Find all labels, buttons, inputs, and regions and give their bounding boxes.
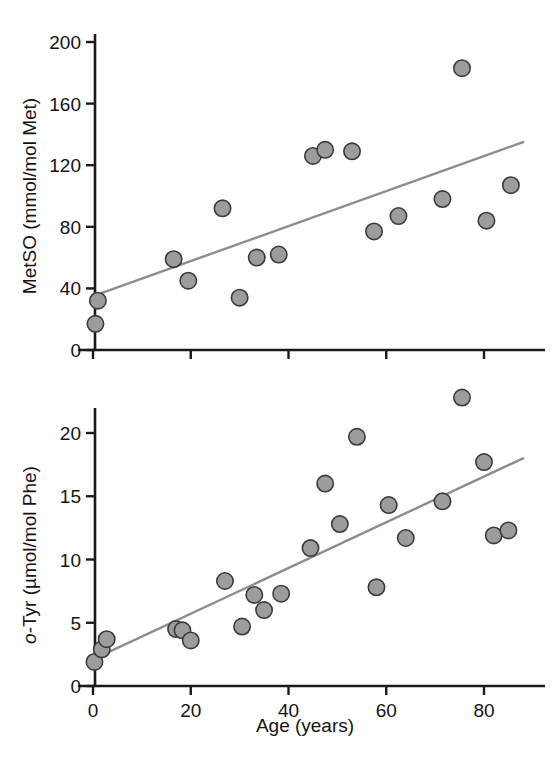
figure-container: 04080120160200 MetSO (mmol/mol Met) 0510… <box>0 0 557 765</box>
data-point <box>476 454 492 470</box>
data-point <box>271 246 287 262</box>
data-point <box>366 223 382 239</box>
y-tick-label: 5 <box>70 613 81 634</box>
data-point <box>183 632 199 648</box>
metso-y-axis-title: MetSO (mmol/mol Met) <box>19 98 40 294</box>
data-point <box>317 475 333 491</box>
data-point <box>454 389 470 405</box>
metso-axes <box>78 34 545 359</box>
data-point <box>249 249 265 265</box>
data-point <box>503 177 519 193</box>
data-point <box>302 540 318 556</box>
data-point <box>344 143 360 159</box>
data-point <box>434 191 450 207</box>
y-tick-label: 0 <box>70 340 81 361</box>
data-point <box>231 289 247 305</box>
data-point <box>500 522 516 538</box>
data-point <box>234 618 250 634</box>
data-point <box>180 273 196 289</box>
data-point <box>349 429 365 445</box>
otyr-y-axis-title: o-Tyr (µmol/mol Phe) <box>19 466 40 644</box>
y-tick-label: 80 <box>60 217 81 238</box>
x-tick-label: 20 <box>180 700 201 721</box>
data-point <box>380 497 396 513</box>
x-tick-label: 80 <box>473 700 494 721</box>
metso-y-tick-labels: 04080120160200 <box>49 32 81 361</box>
y-tick-label: 20 <box>60 423 81 444</box>
otyr-data-points <box>86 389 516 670</box>
y-tick-label: 40 <box>60 278 81 299</box>
panel-otyr: 05101520 020406080 o-Tyr (µmol/mol Phe) … <box>0 380 557 765</box>
otyr-scatter-plot: 05101520 020406080 o-Tyr (µmol/mol Phe) … <box>0 380 557 765</box>
data-point <box>390 208 406 224</box>
data-point <box>454 60 470 76</box>
y-tick-label: 120 <box>49 155 81 176</box>
y-tick-label: 200 <box>49 32 81 53</box>
data-point <box>90 293 106 309</box>
otyr-trendline <box>93 458 523 659</box>
panel-metso: 04080120160200 MetSO (mmol/mol Met) <box>0 0 557 390</box>
data-point <box>398 530 414 546</box>
data-point <box>98 631 114 647</box>
data-point <box>256 602 272 618</box>
x-tick-label: 60 <box>376 700 397 721</box>
data-point <box>368 579 384 595</box>
y-tick-label: 0 <box>70 676 81 697</box>
data-point <box>217 573 233 589</box>
data-point <box>332 516 348 532</box>
data-point <box>87 316 103 332</box>
data-point <box>273 585 289 601</box>
data-point <box>165 251 181 267</box>
y-tick-label: 15 <box>60 486 81 507</box>
data-point <box>317 142 333 158</box>
data-point <box>478 212 494 228</box>
metso-scatter-plot: 04080120160200 MetSO (mmol/mol Met) <box>0 0 557 390</box>
y-tick-label: 160 <box>49 94 81 115</box>
x-tick-label: 0 <box>88 700 99 721</box>
metso-data-points <box>87 60 519 332</box>
y-tick-label: 10 <box>60 550 81 571</box>
otyr-italic-o: o <box>19 633 40 644</box>
metso-trendline <box>93 142 523 296</box>
otyr-y-tick-labels: 05101520 <box>60 423 81 697</box>
data-point <box>214 200 230 216</box>
otyr-x-axis-title: Age (years) <box>256 715 354 736</box>
data-point <box>434 493 450 509</box>
otyr-label-rest: -Tyr (µmol/mol Phe) <box>19 466 40 633</box>
data-point <box>246 587 262 603</box>
